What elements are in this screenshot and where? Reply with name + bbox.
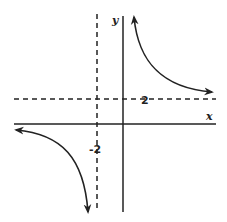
curve-lower-left-branch [16, 130, 88, 212]
curve-upper-right-branch [134, 17, 212, 92]
x-axis-label: x [205, 110, 213, 123]
rational-function-graph: y x 2 -2 [0, 0, 227, 222]
vertical-asymptote-label: -2 [89, 143, 101, 156]
horizontal-asymptote-label: 2 [141, 94, 149, 107]
y-axis-label: y [111, 14, 120, 27]
